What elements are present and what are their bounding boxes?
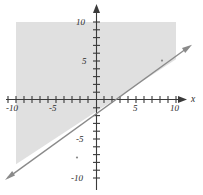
x-tick-label-minus-10: -10 — [6, 104, 18, 113]
y-tick-label-10: 10 — [76, 18, 85, 27]
x-tick-label-minus-5: -5 — [49, 104, 57, 113]
coordinate-graph-figure: -10 -5 5 10 10 5 -5 -10 x — [0, 0, 203, 195]
x-axis-label: x — [191, 95, 195, 105]
plot-canvas — [0, 0, 203, 195]
x-tick-label-10: 10 — [170, 104, 179, 113]
y-tick-label-5: 5 — [82, 57, 87, 66]
x-tick-label-5: 5 — [133, 104, 138, 113]
y-tick-label-minus-5: -5 — [76, 135, 84, 144]
y-tick-label-minus-10: -10 — [71, 174, 83, 183]
